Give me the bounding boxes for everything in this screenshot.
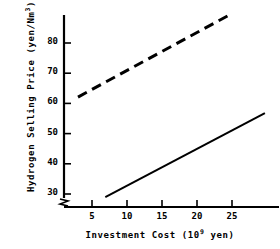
y-tick-label-40: 40 [36, 157, 58, 167]
x-tick-label-10: 10 [116, 211, 138, 221]
x-axis-title-tail: yen) [204, 230, 234, 240]
y-tick-label-30: 30 [36, 187, 58, 197]
y-axis-title-main: Hydrogen Selling Price (yen/Nm [26, 11, 36, 192]
y-tick-label-80: 80 [36, 36, 58, 46]
y-tick-label-70: 70 [36, 66, 58, 76]
series-upper-dashed-line [78, 16, 228, 97]
x-tick-label-15: 15 [151, 211, 173, 221]
y-axis-break-icon [60, 199, 68, 206]
x-tick-label-5: 5 [81, 211, 103, 221]
x-axis-title: Investment Cost (109 yen) [40, 230, 280, 240]
y-tick-label-50: 50 [36, 127, 58, 137]
series-lower-solid-line [105, 113, 265, 197]
x-axis-title-main: Investment Cost (10 [86, 230, 200, 240]
y-axis-title: Hydrogen Selling Price (yen/Nm3) [26, 6, 36, 192]
x-tick-label-20: 20 [186, 211, 208, 221]
y-tick-label-60: 60 [36, 96, 58, 106]
x-tick-label-25: 25 [221, 211, 243, 221]
y-axis-title-exponent: 3 [24, 7, 32, 12]
chart-figure: 30 40 50 60 70 80 5 10 15 20 25 Hydrogen… [0, 0, 280, 249]
y-axis-title-tail: ) [26, 1, 36, 7]
